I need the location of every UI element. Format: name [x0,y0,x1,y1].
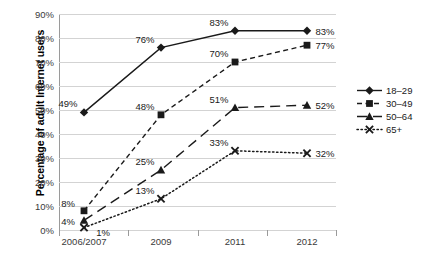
data-point-label: 51% [209,93,228,104]
x-axis-tick-label: 2009 [150,236,171,247]
data-point-label: 48% [135,100,154,111]
y-axis-tick-label: 10% [20,201,54,212]
legend-label: 18–29 [386,85,412,96]
y-axis-tick-label: 30% [20,153,54,164]
series-2 [81,42,311,214]
data-point-label: 1% [96,226,110,237]
series-3 [80,101,311,224]
plot-area [59,14,336,230]
x-axis-tick-label: 2011 [225,236,245,247]
data-point-label: 33% [209,136,228,147]
x-axis-tick-label: 2006/2007 [62,236,107,247]
legend-symbol-triangle-icon [356,110,383,123]
x-axis-tick-mark [336,230,337,236]
data-point-label: 52% [315,100,334,111]
y-axis-tick-label: 60% [20,81,54,92]
data-point-label: 4% [61,216,75,227]
x-axis-tick-mark [198,230,199,236]
legend-item-4[interactable]: 65+ [356,123,426,136]
data-point-label: 77% [315,40,334,51]
legend-symbol-square-icon [356,97,383,110]
data-point-label: 13% [135,184,154,195]
x-axis-tick-mark [128,230,129,236]
series-1 [80,27,311,117]
x-axis-tick-label: 2012 [296,236,317,247]
y-axis-tick-labels: 0%10%20%30%40%50%60%70%80%90% [16,0,54,259]
series-layer [59,14,336,230]
legend-label: 50–64 [386,111,412,122]
x-axis-tick-mark [59,230,60,236]
legend: 18–2930–4950–6465+ [356,84,426,136]
y-axis-tick-label: 50% [20,105,54,116]
legend-label: 30–49 [386,98,412,109]
data-point-label: 32% [315,148,334,159]
y-axis-tick-label: 90% [20,9,54,20]
line-chart: Percentage of adult Internet users 0%10%… [0,0,429,259]
data-point-label: 70% [209,48,228,59]
y-axis-tick-label: 70% [20,57,54,68]
data-point-label: 8% [61,197,75,208]
x-axis-tick-mark [267,230,268,236]
y-axis-tick-label: 20% [20,177,54,188]
legend-label: 65+ [386,124,402,135]
legend-symbol-diamond-icon [356,84,383,97]
data-point-label: 83% [315,25,334,36]
y-axis-tick-label: 40% [20,129,54,140]
data-point-label: 76% [135,33,154,44]
data-point-label: 49% [58,98,77,109]
legend-item-2[interactable]: 30–49 [356,97,426,110]
legend-symbol-x-icon [356,123,383,136]
data-point-label: 25% [135,156,154,167]
legend-item-3[interactable]: 50–64 [356,110,426,123]
y-axis-tick-label: 80% [20,33,54,44]
y-axis-tick-label: 0% [20,225,54,236]
data-point-label: 83% [209,16,228,27]
series-4 [80,147,310,231]
legend-item-1[interactable]: 18–29 [356,84,426,97]
